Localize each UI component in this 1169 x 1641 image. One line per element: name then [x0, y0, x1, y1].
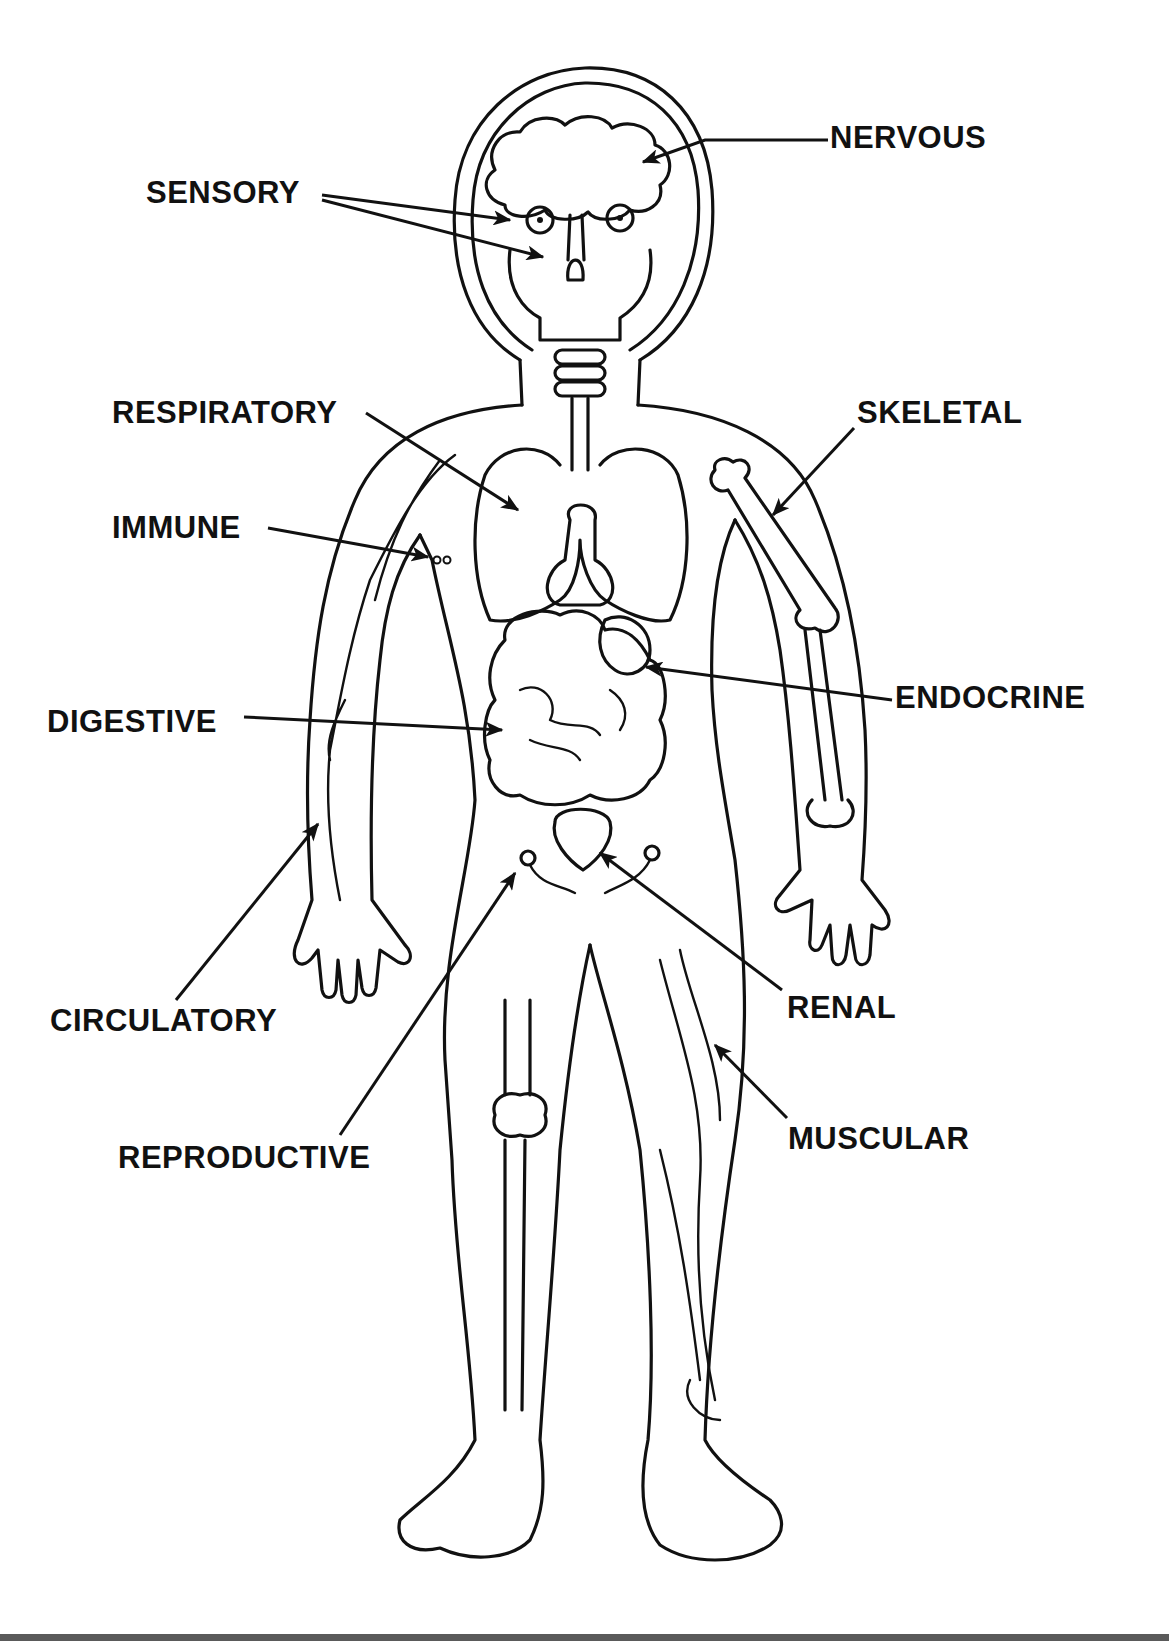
body-systems-diagram: NERVOUS SENSORY RESPIRATORY SKELETAL IMM… [0, 0, 1169, 1641]
bottom-edge-bar [0, 1634, 1169, 1641]
arrow-immune [268, 528, 428, 557]
leader-arrows [0, 0, 1169, 1641]
arrow-endocrine [646, 667, 892, 700]
arrow-muscular [715, 1045, 787, 1118]
arrow-respiratory [366, 413, 518, 510]
arrow-circulatory [176, 824, 318, 1000]
arrow-nervous [643, 140, 828, 162]
arrow-reproductive [340, 873, 515, 1135]
arrow-renal [600, 853, 782, 990]
arrow-skeletal [773, 428, 854, 515]
arrow-digestive [244, 717, 502, 730]
